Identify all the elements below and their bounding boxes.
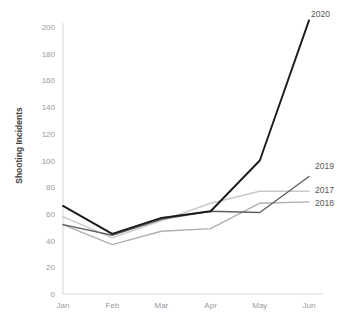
series-label-2018: 2018 bbox=[315, 198, 334, 208]
series-line-2018 bbox=[63, 202, 309, 245]
y-axis-tick-label: 80 bbox=[46, 183, 55, 192]
y-axis-title: Shooting Incidents bbox=[14, 107, 24, 184]
y-axis-tick-label: 60 bbox=[46, 210, 55, 219]
y-axis-tick-label: 20 bbox=[46, 263, 55, 272]
series-label-2020: 2020 bbox=[311, 9, 330, 19]
y-axis-tick-label: 40 bbox=[46, 237, 55, 246]
line-chart: 020406080100120140160180200JanFebMarAprM… bbox=[0, 0, 353, 331]
y-axis-tick-label: 200 bbox=[42, 23, 56, 32]
series-label-2017: 2017 bbox=[315, 185, 334, 195]
y-axis-tick-label: 160 bbox=[42, 76, 56, 85]
y-axis-tick-label: 180 bbox=[42, 50, 56, 59]
series-label-2019: 2019 bbox=[315, 161, 334, 171]
series-line-2020 bbox=[63, 20, 309, 234]
x-axis-tick-label: Mar bbox=[155, 301, 169, 310]
y-axis-tick-label: 140 bbox=[42, 103, 56, 112]
y-axis-tick-label: 120 bbox=[42, 130, 56, 139]
y-axis-tick-label: 0 bbox=[51, 290, 56, 299]
x-axis-tick-label: May bbox=[252, 301, 267, 310]
chart-canvas: 020406080100120140160180200JanFebMarAprM… bbox=[0, 0, 353, 331]
x-axis-tick-label: Apr bbox=[204, 301, 217, 310]
y-axis-tick-label: 100 bbox=[42, 157, 56, 166]
x-axis-tick-label: Jan bbox=[57, 301, 70, 310]
x-axis-tick-label: Feb bbox=[105, 301, 119, 310]
x-axis-tick-label: Jun bbox=[303, 301, 316, 310]
